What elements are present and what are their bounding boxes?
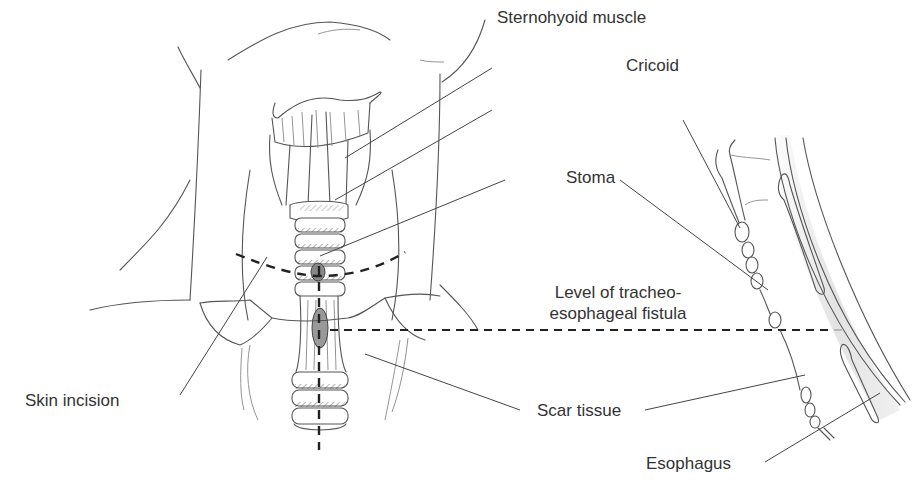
label-esophagus: Esophagus: [646, 454, 731, 473]
label-sternohyoid-muscle: Sternohyoid muscle: [497, 8, 646, 27]
label-scar-tissue: Scar tissue: [537, 401, 621, 420]
label-cricoid: Cricoid: [626, 56, 679, 75]
label-fistula-level: Level of tracheo- esophageal fistula: [538, 283, 698, 323]
diagram-canvas: [0, 0, 924, 490]
label-fistula-level-line2: esophageal fistula: [538, 304, 698, 323]
label-fistula-level-line1: Level of tracheo-: [538, 283, 698, 302]
leader-lines: [180, 68, 880, 462]
sagittal-view: [716, 135, 910, 440]
label-stoma: Stoma: [566, 168, 615, 187]
label-skin-incision: Skin incision: [25, 391, 120, 410]
diagram-figure: Sternohyoid muscle Cricoid Stoma Level o…: [0, 0, 924, 490]
